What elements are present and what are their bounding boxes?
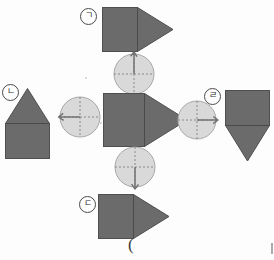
option-label-digeut: ㄷ — [79, 196, 96, 213]
rotation-dial-up-icon[interactable] — [112, 51, 156, 95]
dial-left[interactable] — [58, 96, 102, 140]
option-shape-rieul — [225, 90, 270, 162]
scan-speck — [85, 77, 87, 79]
rotation-dial-down-icon[interactable] — [114, 146, 158, 190]
option-label-giyeok: ㄱ — [80, 8, 97, 25]
square-with-right-pointing-triangle-icon — [103, 93, 188, 147]
page-edge-artifact — [271, 243, 273, 254]
option-shape-digeut — [98, 194, 170, 239]
option-shape-giyeok — [102, 7, 174, 52]
square-with-right-pointing-triangle-icon — [98, 194, 170, 239]
square-with-right-pointing-triangle-icon — [102, 7, 174, 52]
diagram-canvas: ㄱ ㄴ — [0, 0, 274, 260]
square-with-down-pointing-triangle-icon — [225, 90, 270, 162]
center-shape — [103, 93, 188, 147]
scan-speck — [100, 122, 102, 124]
rotation-dial-right-icon[interactable] — [177, 100, 219, 142]
dial-right[interactable] — [177, 100, 219, 142]
dial-down[interactable] — [114, 146, 158, 190]
option-shape-nieun — [5, 88, 50, 160]
footer-paren-mark: ( — [128, 235, 134, 255]
rotation-dial-left-icon[interactable] — [58, 96, 102, 140]
square-with-up-pointing-triangle-icon — [5, 88, 50, 160]
option-label-rieul: ㄹ — [204, 88, 221, 105]
dial-up[interactable] — [112, 51, 156, 95]
